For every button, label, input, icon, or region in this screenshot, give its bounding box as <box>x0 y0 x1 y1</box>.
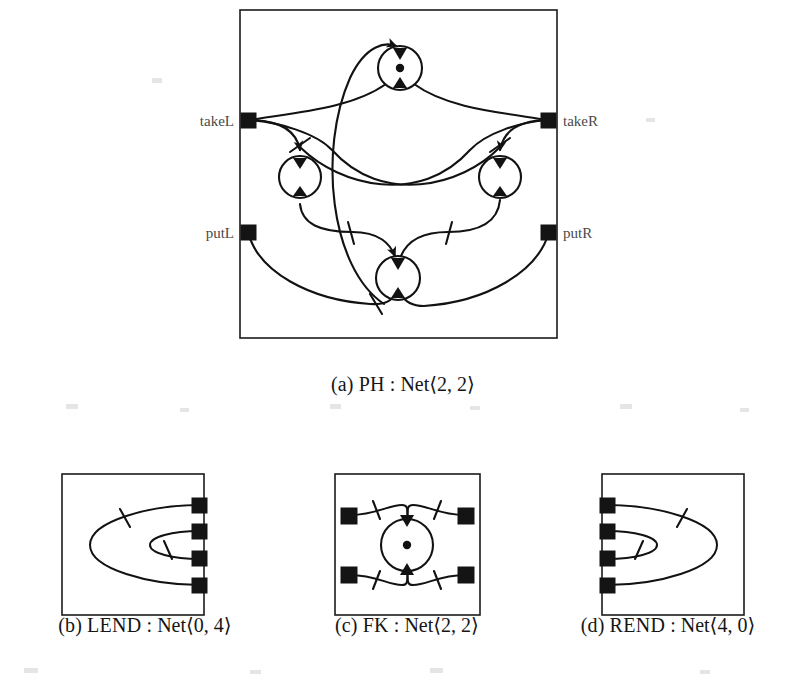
caption-panel-b: (b) LEND : Net⟨0, 4⟩ <box>0 613 290 637</box>
scan-speck <box>330 404 341 409</box>
scan-speck <box>700 670 710 674</box>
scan-speck <box>620 404 632 409</box>
caption-a-name: PH <box>359 373 385 395</box>
caption-b-index: (b) <box>58 614 82 636</box>
rend-boundary-box <box>602 474 744 615</box>
scan-speck <box>152 78 162 83</box>
caption-a-rest: : Net⟨2, 2⟩ <box>385 373 475 395</box>
lend-port-4[interactable] <box>192 578 207 593</box>
caption-panel-d: (d) REND : Net⟨4, 0⟩ <box>530 613 806 637</box>
arc-pleft-to-pbottom <box>300 204 395 256</box>
caption-b-name: LEND <box>87 614 142 636</box>
fk-port-right-1[interactable] <box>458 508 474 524</box>
caption-panel-c: (c) FK : Net⟨2, 2⟩ <box>272 613 542 637</box>
port-label-putL: putL <box>206 225 234 241</box>
scan-speck <box>430 668 443 673</box>
scan-speck <box>250 670 261 674</box>
port-takeR[interactable] <box>541 113 556 128</box>
caption-a-index: (a) <box>331 373 354 395</box>
scan-speck <box>470 406 480 410</box>
port-label-putR: putR <box>563 225 592 241</box>
rend-port-3[interactable] <box>600 551 615 566</box>
caption-c-rest: : Net⟨2, 2⟩ <box>389 614 479 636</box>
arc-ptop-to-takeL <box>249 84 386 120</box>
scan-speck <box>646 118 655 122</box>
fk-port-left-1[interactable] <box>341 508 357 524</box>
caption-c-name: FK <box>363 614 389 636</box>
caption-c-index: (c) <box>335 614 358 636</box>
rend-port-1[interactable] <box>600 498 615 513</box>
port-takeL[interactable] <box>241 113 256 128</box>
panel-ph-diagram: takeL putL takeR putR <box>0 0 806 360</box>
lend-port-1[interactable] <box>192 498 207 513</box>
panel-rend-diagram <box>570 465 806 625</box>
panel-fk-diagram <box>310 465 540 625</box>
port-label-takeL: takeL <box>200 113 234 129</box>
arc-putL-to-pbottom <box>248 232 396 304</box>
rend-port-2[interactable] <box>600 524 615 539</box>
lend-boundary-box <box>62 474 204 615</box>
scan-speck <box>740 408 749 412</box>
scan-speck <box>66 404 78 409</box>
caption-d-name: REND <box>610 614 666 636</box>
lend-port-3[interactable] <box>192 551 207 566</box>
fk-token <box>403 541 411 549</box>
port-label-takeR: takeR <box>563 113 598 129</box>
scan-speck <box>24 668 38 673</box>
lend-port-2[interactable] <box>192 524 207 539</box>
arc-putR-to-pbottom <box>401 232 549 306</box>
token-place-top <box>396 64 404 72</box>
panel-lend-diagram <box>40 465 280 625</box>
caption-panel-a: (a) PH : Net⟨2, 2⟩ <box>0 372 806 396</box>
fk-port-right-2[interactable] <box>458 567 474 583</box>
port-putR[interactable] <box>541 225 556 240</box>
arc-ptop-to-takeR <box>414 84 548 120</box>
rend-wire-outer <box>607 505 717 585</box>
caption-d-index: (d) <box>581 614 605 636</box>
scan-speck <box>180 408 189 412</box>
lend-wire-outer <box>90 505 200 585</box>
figure-root: takeL putL takeR putR (a) PH : Net⟨2, 2⟩… <box>0 0 806 690</box>
port-putL[interactable] <box>241 225 256 240</box>
caption-b-rest: : Net⟨0, 4⟩ <box>142 614 232 636</box>
fk-port-left-2[interactable] <box>341 567 357 583</box>
caption-d-rest: : Net⟨4, 0⟩ <box>665 614 755 636</box>
rend-port-4[interactable] <box>600 578 615 593</box>
